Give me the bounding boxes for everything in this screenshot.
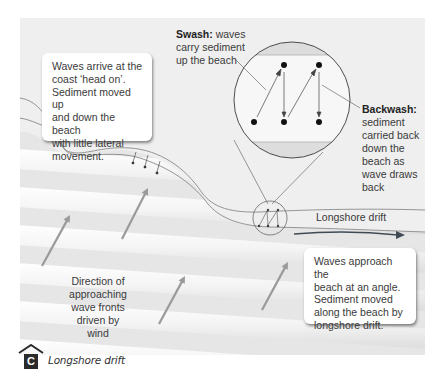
backwash-text: down the: [362, 142, 419, 155]
backwash-label: Backwash: sediment carried back down the…: [362, 103, 419, 194]
backwash-text: sediment: [362, 116, 419, 129]
angle-line: Waves approach the: [314, 255, 407, 281]
wind-direction-label: Direction of approaching wave fronts dri…: [62, 275, 134, 340]
angle-line: beach at an angle.: [314, 281, 407, 294]
wind-text: wave fronts: [62, 301, 134, 314]
angle-info-box: Waves approach the beach at an angle. Se…: [304, 248, 416, 324]
wind-text: Direction of: [62, 275, 134, 288]
backwash-text: beach as: [362, 155, 419, 168]
backwash-term: Backwash:: [362, 103, 419, 116]
swash-text: waves: [213, 28, 246, 40]
backwash-text: back: [362, 181, 419, 194]
wind-text: approaching: [62, 288, 134, 301]
caption-roof-icon: [18, 344, 44, 354]
head-on-line: movement.: [52, 150, 143, 163]
swash-text: up the beach: [176, 54, 245, 67]
head-on-line: with little lateral: [52, 137, 143, 150]
figure-letter-badge: C: [24, 354, 38, 369]
head-on-line: Waves arrive at the: [52, 60, 143, 73]
angle-line: along the beach by: [314, 306, 407, 319]
swash-text: carry sediment: [176, 41, 245, 54]
swash-term: Swash:: [176, 28, 213, 40]
figure-caption-text: Longshore drift: [48, 354, 125, 366]
backwash-text: wave draws: [362, 168, 419, 181]
head-on-line: coast ‘head on’.: [52, 73, 143, 86]
diagram-stage: Waves arrive at the coast ‘head on’. Sed…: [0, 0, 445, 376]
angle-line: Sediment moved: [314, 293, 407, 306]
head-on-line: Sediment moved up: [52, 86, 143, 112]
wind-text: driven by: [62, 314, 134, 327]
swash-label: Swash: waves carry sediment up the beach: [176, 28, 245, 67]
backwash-text: carried back: [362, 129, 419, 142]
head-on-line: and down the beach: [52, 111, 143, 137]
angle-line: longshore drift.: [314, 319, 407, 332]
wind-text: wind: [62, 327, 134, 340]
longshore-drift-label: Longshore drift: [316, 211, 386, 224]
head-on-info-box: Waves arrive at the coast ‘head on’. Sed…: [42, 53, 152, 141]
